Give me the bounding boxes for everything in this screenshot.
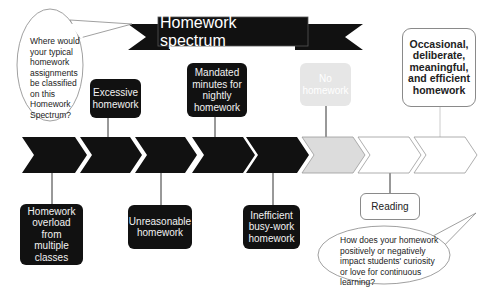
label-excessive-homework: Excessive homework [90, 79, 141, 118]
label-inefficient-busy-work: Inefficient busy-work homework [243, 205, 300, 249]
label-reading: Reading [360, 193, 420, 220]
spectrum-chevrons [22, 137, 477, 173]
page-title: Homework spectrum [160, 18, 306, 45]
label-mandated-minutes: Mandated minutes for nightly homework [187, 63, 247, 117]
label-no-homework: No homework [300, 63, 351, 106]
label-homework-overload: Homework overload from multiple classes [20, 204, 83, 265]
bottom-right-callout-text: How does your homework positively or neg… [340, 235, 440, 288]
label-unreasonable-homework: Unreasonable homework [128, 205, 192, 249]
label-occasional-efficient-homework: Occasional, deliberate, meaningful, and … [402, 28, 476, 107]
left-callout-text: Where would your typical homework assign… [30, 36, 82, 120]
